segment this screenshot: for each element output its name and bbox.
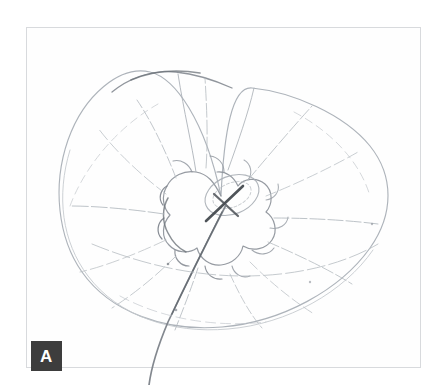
figure-plate: A: [0, 0, 437, 385]
panel-label-letter: A: [40, 348, 53, 365]
plate-frame: [26, 27, 421, 368]
panel-label-badge: A: [31, 341, 62, 371]
